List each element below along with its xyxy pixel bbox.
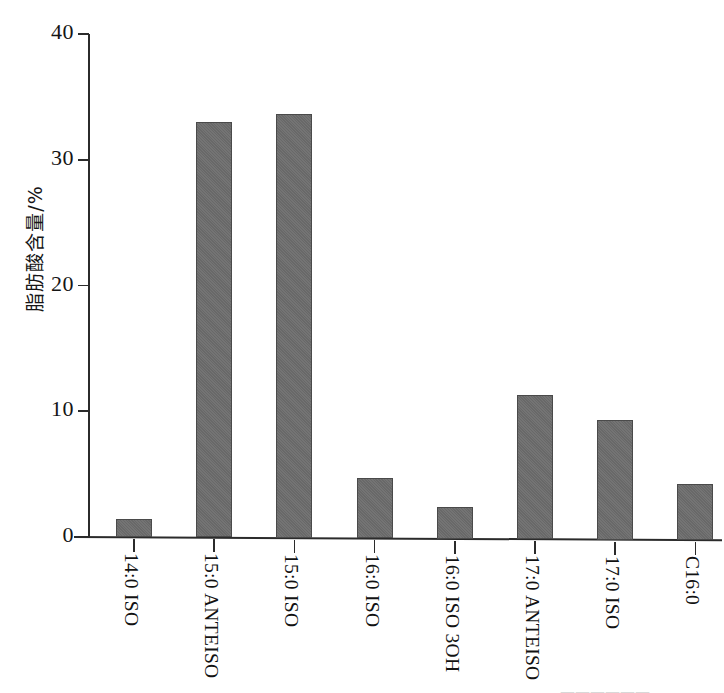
y-axis-tick (78, 33, 89, 35)
y-axis-tick-label: 40 (34, 19, 74, 45)
bar (196, 122, 232, 537)
x-axis-tick (213, 539, 215, 552)
x-axis-tick-label: 17:0 ANTEISO (521, 555, 543, 680)
y-axis-tick-label: 20 (34, 271, 74, 297)
y-axis-tick (78, 159, 89, 161)
x-axis-tick-label: 14:0 ISO (120, 553, 142, 626)
y-axis-tick-label: 0 (34, 522, 74, 548)
x-axis-tick (534, 541, 536, 554)
x-axis-tick-label: 15:0 ANTEISO (200, 553, 222, 678)
y-axis-tick (78, 410, 89, 412)
x-axis-tick (454, 541, 456, 554)
y-axis-tick-label: 30 (34, 145, 74, 171)
y-axis-tick (78, 285, 89, 287)
x-axis-tick (374, 540, 376, 553)
x-axis-tick-label: 15:0 ISO (280, 554, 302, 627)
x-axis-tick-label: C16:0 (681, 556, 703, 605)
x-axis-tick-label: 16:0 ISO (361, 554, 383, 627)
bar (597, 420, 633, 539)
bottom-cropped-text: —————— (560, 683, 650, 693)
x-axis-tick (695, 542, 697, 555)
bar (276, 114, 312, 538)
x-axis-tick-label: 16:0 ISO 3OH (441, 555, 463, 672)
bar (517, 395, 553, 540)
bar (677, 484, 713, 541)
y-axis-tick-label: 10 (34, 396, 74, 422)
fatty-acid-bar-chart: 脂肪酸含量/% 010203040 14:0 ISO15:0 ANTEISO15… (0, 0, 724, 693)
x-axis-tick (133, 539, 135, 552)
bar (357, 478, 393, 538)
x-axis-tick-label: 17:0 ISO (601, 556, 623, 629)
x-axis-tick (294, 540, 296, 553)
bar (437, 507, 473, 538)
x-axis-tick (614, 542, 616, 555)
bar (116, 519, 152, 537)
y-axis-title: 脂肪酸含量/% (20, 164, 47, 334)
